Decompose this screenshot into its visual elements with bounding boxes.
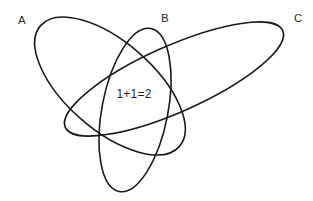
ellipse-diagram: A B C 1+1=2 bbox=[0, 0, 313, 201]
diagram-canvas: A B C 1+1=2 bbox=[0, 0, 313, 201]
set-label-c: C bbox=[294, 12, 303, 24]
set-label-a: A bbox=[18, 14, 26, 26]
center-equation-text: 1+1=2 bbox=[116, 87, 151, 101]
set-label-b: B bbox=[161, 12, 169, 24]
